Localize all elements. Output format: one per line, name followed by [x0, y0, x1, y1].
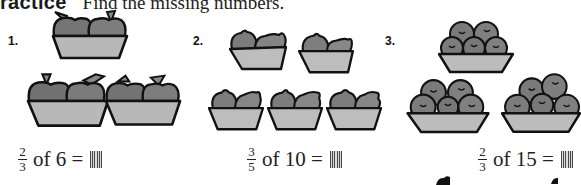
problem-number: 1. [8, 34, 18, 48]
fraction: 2 3 [18, 146, 27, 173]
apple-basket-icon [26, 70, 108, 132]
equation-text: of 15 = [493, 147, 554, 172]
numerator: 3 [248, 146, 255, 158]
answer-box[interactable] [90, 151, 102, 168]
apple-basket-icon [104, 70, 182, 132]
denominator: 3 [479, 161, 486, 173]
apple-basket-icon [49, 8, 129, 68]
problem-number: 3. [385, 34, 395, 48]
equation-text: of 10 = [262, 147, 323, 172]
denominator: 3 [19, 161, 26, 173]
cropped-illustration-icon [432, 175, 462, 185]
lemon-basket-icon [208, 84, 264, 134]
fraction: 2 3 [478, 146, 487, 173]
page-header: ractice Find the missing numbers. [0, 0, 284, 14]
problem-equation: 2 3 of 6 = [18, 146, 102, 173]
answer-box[interactable] [561, 151, 573, 168]
problem-equation: 2 3 of 15 = [478, 146, 573, 173]
plum-basket-icon [438, 18, 514, 74]
problem-equation: 3 5 of 10 = [247, 146, 342, 173]
lemon-basket-icon [229, 27, 287, 77]
numerator: 2 [479, 146, 486, 158]
plum-basket-icon [501, 72, 581, 134]
equation-text: of 6 = [33, 147, 83, 172]
lemon-basket-icon [326, 84, 382, 134]
denominator: 5 [248, 161, 255, 173]
fraction: 3 5 [247, 146, 256, 173]
lemon-basket-icon [298, 30, 354, 78]
numerator: 2 [19, 146, 26, 158]
lemon-basket-icon [267, 84, 323, 134]
plum-basket-icon [406, 76, 490, 134]
cropped-illustration-icon [548, 176, 562, 184]
problem-number: 2. [193, 34, 203, 48]
answer-box[interactable] [330, 151, 342, 168]
